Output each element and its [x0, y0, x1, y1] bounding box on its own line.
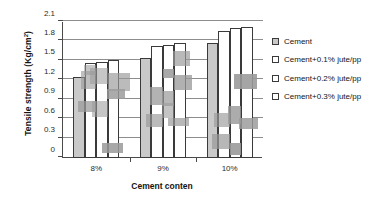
legend-swatch-icon [272, 93, 279, 100]
y-axis-title-superscript: 2 [23, 34, 29, 37]
bar [108, 60, 120, 158]
x-axis-label: 8% [91, 164, 103, 173]
y-axis-label: 1.5 [44, 47, 55, 56]
y-axis-label: 0.9 [44, 86, 55, 95]
legend-item: Cement+0.3% jute/pp [272, 92, 384, 102]
scan-artifact [107, 89, 126, 99]
y-axis-label: 0 [51, 144, 55, 153]
legend-swatch-icon [272, 38, 279, 45]
y-axis-label: 0.6 [44, 105, 55, 114]
y-axis-label: 1.8 [44, 27, 55, 36]
bar-group [196, 22, 263, 158]
legend-swatch-icon [272, 75, 279, 82]
y-axis-label: 2.1 [44, 8, 55, 17]
scan-artifact [174, 75, 191, 91]
x-axis-title: Cement conten [62, 181, 262, 191]
scan-artifact [108, 73, 129, 91]
y-axis-label: 1.2 [44, 66, 55, 75]
bar [73, 77, 85, 158]
x-axis-tick [130, 157, 131, 162]
legend-item: Cement+0.2% jute/pp [272, 73, 384, 83]
x-axis-label: 9% [157, 164, 169, 173]
scan-artifact [102, 143, 123, 153]
y-axis-tick [58, 20, 63, 21]
legend-item-label: Cement [284, 37, 312, 46]
bar-series-container [63, 22, 263, 158]
bar [140, 58, 152, 158]
legend-item: Cement+0.1% jute/pp [272, 55, 384, 65]
bar [218, 31, 230, 158]
legend-item-label: Cement+0.2% jute/pp [284, 74, 361, 83]
legend-item-label: Cement+0.3% jute/pp [284, 92, 361, 101]
bar [174, 43, 186, 158]
scan-artifact [239, 118, 258, 129]
scan-artifact [168, 118, 190, 126]
plot-area: 00.30.60.91.21.51.82.1 8%9%10% [62, 22, 262, 158]
y-axis-title: Tensile strength (Kg/cm2) [23, 8, 34, 158]
x-axis-tick [196, 157, 197, 162]
legend-item-label: Cement+0.1% jute/pp [284, 55, 361, 64]
x-axis-label: 10% [222, 164, 238, 173]
y-axis-title-text: Tensile strength (Kg/cm [23, 37, 33, 136]
gridline [63, 20, 263, 21]
scan-artifact [173, 51, 190, 66]
bar-group [63, 22, 130, 158]
bar [230, 28, 242, 158]
legend-swatch-icon [272, 56, 279, 63]
chart-legend: CementCement+0.1% jute/ppCement+0.2% jut… [272, 36, 384, 110]
bar-group [130, 22, 197, 158]
y-axis-label: 0.3 [44, 125, 55, 134]
scan-artifact [234, 74, 257, 89]
chart-figure: Tensile strength (Kg/cm2) 00.30.60.91.21… [0, 0, 386, 202]
bar [241, 27, 253, 158]
legend-item: Cement [272, 36, 384, 46]
